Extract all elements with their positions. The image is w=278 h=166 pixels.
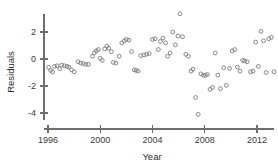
x-axis-title: Year: [142, 151, 161, 162]
data-point: [87, 63, 91, 67]
data-point: [264, 71, 268, 75]
data-point: [256, 65, 260, 69]
data-points: [47, 12, 276, 116]
x-tick-label: 2012: [247, 135, 267, 145]
data-point: [156, 48, 160, 52]
plot-area: 20-2-4 19962000200420082012 Year Residua…: [0, 0, 278, 166]
data-point: [145, 52, 149, 56]
data-point: [72, 70, 76, 74]
y-tick-label: 0: [31, 54, 36, 64]
data-point: [62, 64, 66, 68]
data-point: [236, 65, 240, 69]
residuals-scatter-chart: 20-2-4 19962000200420082012 Year Residua…: [0, 0, 278, 166]
data-point: [109, 50, 113, 54]
x-tick-label: 1996: [38, 135, 58, 145]
data-point: [130, 50, 134, 54]
data-point: [238, 69, 242, 73]
data-point: [168, 51, 172, 55]
data-point: [117, 54, 121, 58]
y-tick-label: 2: [31, 27, 36, 37]
data-point: [251, 69, 255, 73]
data-point: [222, 66, 226, 70]
data-point: [259, 29, 263, 33]
data-point: [161, 36, 165, 40]
data-point: [147, 52, 151, 56]
x-axis: 19962000200420082012: [38, 125, 274, 145]
data-point: [254, 40, 258, 44]
y-axis-title: Residuals: [5, 51, 16, 93]
data-point: [178, 12, 182, 16]
x-tick-label: 2008: [195, 135, 215, 145]
data-point: [164, 41, 168, 45]
data-point: [127, 38, 131, 42]
data-point: [158, 40, 162, 44]
data-point: [60, 63, 64, 67]
x-tick-label: 2000: [90, 135, 110, 145]
data-point: [196, 112, 200, 116]
x-tick-label: 2004: [142, 135, 162, 145]
data-point: [272, 70, 276, 74]
data-point: [53, 65, 57, 69]
data-point: [249, 70, 253, 74]
data-point: [194, 96, 198, 100]
data-point: [153, 37, 157, 41]
data-point: [181, 35, 185, 39]
data-point: [176, 34, 180, 38]
data-point: [187, 54, 191, 58]
data-point: [151, 38, 155, 42]
data-point: [219, 87, 223, 91]
data-point: [245, 60, 249, 64]
data-point: [213, 51, 217, 55]
data-point: [58, 67, 62, 71]
data-point: [262, 39, 266, 43]
data-point: [81, 62, 85, 66]
data-point: [228, 67, 232, 71]
data-point: [224, 83, 228, 87]
data-point: [216, 73, 220, 77]
data-point: [211, 85, 215, 89]
data-point: [171, 30, 175, 34]
y-tick-label: -4: [28, 108, 36, 118]
data-point: [173, 43, 177, 47]
y-axis: 20-2-4: [28, 14, 48, 120]
data-point: [166, 54, 170, 58]
y-tick-label: -2: [28, 81, 36, 91]
